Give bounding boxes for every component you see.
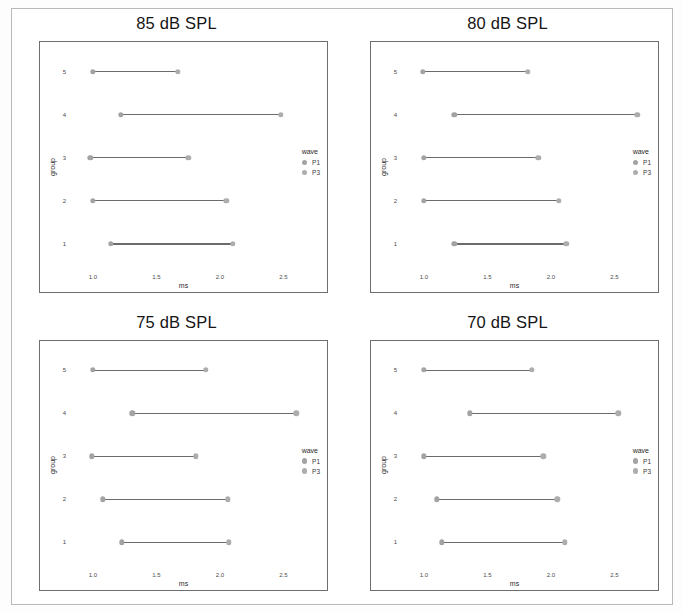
x-tick-label: 1.0 bbox=[89, 572, 97, 578]
connector-line bbox=[132, 413, 296, 414]
connector-line bbox=[111, 243, 233, 244]
connector-line bbox=[90, 157, 188, 158]
legend-item-p3[interactable]: P3 bbox=[302, 169, 320, 176]
facet-panel: 80 dB SPLgroupms543211.01.52.02.5waveP1P… bbox=[342, 8, 673, 307]
legend: waveP1P3 bbox=[302, 148, 320, 176]
data-point-p1 bbox=[439, 540, 444, 545]
legend: waveP1P3 bbox=[633, 148, 651, 176]
y-tick-label: 1 bbox=[371, 241, 397, 247]
data-point-p1 bbox=[421, 454, 426, 459]
figure-page: 85 dB SPLgroupms543211.01.52.02.5waveP1P… bbox=[0, 0, 683, 613]
legend-title: wave bbox=[633, 148, 651, 155]
legend-item-p1[interactable]: P1 bbox=[302, 458, 320, 465]
y-tick-label: 5 bbox=[371, 69, 397, 75]
legend-title: wave bbox=[302, 148, 320, 155]
data-point-p3 bbox=[225, 497, 230, 502]
legend-item-p1[interactable]: P1 bbox=[302, 159, 320, 166]
legend-item-label: P3 bbox=[312, 468, 320, 475]
legend-title: wave bbox=[302, 447, 320, 454]
legend-marker-icon bbox=[302, 468, 307, 473]
legend-item-p3[interactable]: P3 bbox=[302, 468, 320, 475]
data-point-p1 bbox=[100, 497, 105, 502]
connector-line bbox=[93, 200, 226, 201]
data-point-p3 bbox=[616, 410, 621, 415]
x-tick-label: 2.5 bbox=[610, 572, 618, 578]
legend-item-label: P3 bbox=[643, 468, 651, 475]
legend-item-label: P1 bbox=[312, 458, 320, 465]
connector-line bbox=[93, 370, 206, 371]
connector-line bbox=[424, 200, 559, 201]
legend-item-label: P3 bbox=[643, 169, 651, 176]
y-tick-label: 2 bbox=[40, 198, 66, 204]
data-point-p3 bbox=[230, 241, 235, 246]
plot-frame: groupms543211.01.52.02.5 bbox=[370, 41, 659, 293]
x-tick-label: 1.5 bbox=[483, 274, 491, 280]
connector-line bbox=[93, 71, 178, 72]
y-tick-label: 5 bbox=[40, 69, 66, 75]
data-point-p1 bbox=[421, 198, 426, 203]
data-point-p3 bbox=[556, 198, 561, 203]
y-tick-label: 1 bbox=[371, 539, 397, 545]
x-tick-label: 2.5 bbox=[279, 274, 287, 280]
y-tick-label: 2 bbox=[40, 496, 66, 502]
data-point-p3 bbox=[193, 454, 198, 459]
connector-line bbox=[424, 456, 543, 457]
legend-marker-icon bbox=[633, 160, 638, 165]
data-point-p1 bbox=[89, 454, 94, 459]
legend-marker-icon bbox=[633, 170, 638, 175]
connector-line bbox=[103, 499, 228, 500]
connector-line bbox=[437, 499, 558, 500]
legend: waveP1P3 bbox=[302, 447, 320, 475]
y-tick-label: 3 bbox=[371, 453, 397, 459]
legend-item-p3[interactable]: P3 bbox=[633, 169, 651, 176]
y-tick-label: 4 bbox=[40, 112, 66, 118]
data-point-p1 bbox=[434, 497, 439, 502]
facet-panel: 85 dB SPLgroupms543211.01.52.02.5waveP1P… bbox=[11, 8, 342, 307]
legend-item-p1[interactable]: P1 bbox=[633, 458, 651, 465]
connector-line bbox=[454, 114, 637, 115]
x-tick-label: 1.0 bbox=[89, 274, 97, 280]
data-point-p1 bbox=[452, 112, 457, 117]
data-point-p3 bbox=[278, 112, 283, 117]
connector-line bbox=[121, 114, 281, 115]
data-point-p3 bbox=[525, 69, 530, 74]
x-axis-title: ms bbox=[40, 282, 327, 289]
legend-item-label: P1 bbox=[643, 159, 651, 166]
data-point-p3 bbox=[536, 155, 541, 160]
data-point-p3 bbox=[555, 497, 560, 502]
data-point-p1 bbox=[130, 410, 135, 415]
y-tick-label: 2 bbox=[371, 198, 397, 204]
data-point-p3 bbox=[203, 367, 208, 372]
facet-panel: 75 dB SPLgroupms543211.01.52.02.5waveP1P… bbox=[11, 307, 342, 606]
x-axis-title: ms bbox=[371, 282, 658, 289]
y-tick-label: 1 bbox=[40, 241, 66, 247]
legend-item-p1[interactable]: P1 bbox=[633, 159, 651, 166]
data-point-p3 bbox=[562, 540, 567, 545]
data-point-p1 bbox=[118, 112, 123, 117]
x-tick-label: 2.0 bbox=[216, 274, 224, 280]
legend-marker-icon bbox=[302, 170, 307, 175]
x-axis-title: ms bbox=[40, 580, 327, 587]
legend-item-label: P1 bbox=[312, 159, 320, 166]
connector-line bbox=[122, 542, 229, 543]
y-tick-label: 4 bbox=[371, 112, 397, 118]
legend-marker-icon bbox=[633, 458, 638, 463]
plot-frame: groupms543211.01.52.02.5 bbox=[39, 340, 328, 592]
x-tick-label: 1.0 bbox=[420, 274, 428, 280]
y-tick-label: 4 bbox=[371, 410, 397, 416]
data-point-p3 bbox=[541, 454, 546, 459]
data-point-p3 bbox=[635, 112, 640, 117]
connector-line bbox=[423, 71, 528, 72]
legend-item-p3[interactable]: P3 bbox=[633, 468, 651, 475]
plot-frame: groupms543211.01.52.02.5 bbox=[370, 340, 659, 592]
panel-title: 70 dB SPL bbox=[342, 313, 673, 332]
plot-area bbox=[401, 50, 650, 266]
connector-line bbox=[470, 413, 619, 414]
y-tick-label: 5 bbox=[40, 367, 66, 373]
connector-line bbox=[92, 456, 196, 457]
data-point-p1 bbox=[467, 410, 472, 415]
y-tick-label: 3 bbox=[371, 155, 397, 161]
legend-item-label: P3 bbox=[312, 169, 320, 176]
connector-line bbox=[424, 157, 538, 158]
data-point-p1 bbox=[421, 367, 426, 372]
